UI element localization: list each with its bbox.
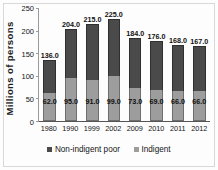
y-axis-tick-mark: [36, 31, 39, 32]
bar-total-label: 225.0: [105, 10, 123, 19]
x-axis-tick-label: 2012: [189, 124, 211, 137]
x-axis-tick-label: 2011: [167, 124, 189, 137]
bar-slot: 176.069.0: [146, 8, 167, 121]
x-axis-tick-label: 1999: [81, 124, 103, 137]
bar-value-label-indigent: 69.0: [150, 97, 164, 106]
y-axis-tick-label: 250: [21, 4, 34, 13]
bar-segment-indigent[interactable]: 95.0: [65, 78, 77, 121]
y-axis-tick-mark: [36, 8, 39, 9]
y-axis-tick-mark: [36, 121, 39, 122]
bar-segment-non-indigent-poor[interactable]: 176.0: [150, 41, 162, 89]
bar-segment-indigent[interactable]: 66.0: [172, 91, 184, 121]
bar-slot: 215.091.0: [82, 8, 103, 121]
legend-swatch-icon: [47, 147, 52, 152]
x-axis-tick-label: 2010: [146, 124, 168, 137]
bar-slot: 225.099.0: [103, 8, 124, 121]
y-axis-title-text: Millions of persons: [4, 21, 15, 115]
bar-total-label: 184.0: [126, 29, 144, 38]
plot-wrapper: 050100150200250 136.062.0204.095.0215.09…: [17, 8, 210, 138]
y-axis-title: Millions of persons: [1, 6, 17, 130]
chart-legend: Non-indigent poorIndigent: [0, 145, 218, 154]
bar-segment-non-indigent-poor[interactable]: 215.0: [86, 24, 98, 80]
stacked-bar[interactable]: 176.069.0: [150, 8, 162, 121]
bar-total-label: 215.0: [83, 15, 101, 24]
stacked-bar[interactable]: 225.099.0: [108, 8, 120, 121]
legend-label: Non-indigent poor: [55, 145, 120, 154]
bar-total-label: 168.0: [169, 36, 187, 45]
legend-entry[interactable]: Non-indigent poor: [47, 145, 120, 154]
bar-total-label: 204.0: [62, 20, 80, 29]
y-axis-tick-label: 100: [21, 72, 34, 81]
bar-value-label-indigent: 66.0: [192, 97, 206, 106]
stacked-bar[interactable]: 215.091.0: [86, 8, 98, 121]
bar-value-label-indigent: 62.0: [43, 97, 57, 106]
y-axis-tick-labels: 050100150200250: [17, 8, 36, 122]
x-axis-tick-label: 1990: [60, 124, 82, 137]
y-axis-tick-mark: [36, 53, 39, 54]
bar-segment-indigent[interactable]: 66.0: [193, 91, 205, 121]
stacked-bar-chart: Millions of persons 050100150200250 136.…: [0, 0, 218, 170]
x-axis-tick-label: 2009: [124, 124, 146, 137]
bar-value-label-indigent: 73.0: [128, 97, 142, 106]
bar-value-label-indigent: 66.0: [171, 97, 185, 106]
bar-group: 136.062.0204.095.0215.091.0225.099.0184.…: [39, 8, 210, 121]
bar-segment-non-indigent-poor[interactable]: 167.0: [193, 46, 205, 92]
bar-segment-indigent[interactable]: 69.0: [150, 90, 162, 121]
y-axis-tick-label: 0: [30, 118, 34, 127]
stacked-bar[interactable]: 204.095.0: [65, 8, 77, 121]
y-axis-tick-mark: [36, 98, 39, 99]
bar-segment-non-indigent-poor[interactable]: 204.0: [65, 29, 77, 78]
stacked-bar[interactable]: 167.066.0: [193, 8, 205, 121]
bar-slot: 204.095.0: [60, 8, 81, 121]
legend-swatch-icon: [134, 147, 139, 152]
bar-value-label-indigent: 95.0: [64, 97, 78, 106]
stacked-bar[interactable]: 184.073.0: [129, 8, 141, 121]
bar-segment-non-indigent-poor[interactable]: 168.0: [172, 45, 184, 91]
x-axis-tick-label: 2002: [103, 124, 125, 137]
x-axis-tick-label: 1980: [38, 124, 60, 137]
bar-slot: 167.066.0: [189, 8, 210, 121]
bar-segment-non-indigent-poor[interactable]: 184.0: [129, 38, 141, 88]
bar-slot: 136.062.0: [39, 8, 60, 121]
bar-segment-indigent[interactable]: 91.0: [86, 80, 98, 121]
bar-value-label-indigent: 91.0: [85, 97, 99, 106]
bar-slot: 168.066.0: [167, 8, 188, 121]
bar-segment-indigent[interactable]: 73.0: [129, 88, 141, 121]
bar-total-label: 176.0: [148, 32, 166, 41]
plot-area: 136.062.0204.095.0215.091.0225.099.0184.…: [38, 8, 210, 122]
y-axis-tick-label: 150: [21, 49, 34, 58]
legend-entry[interactable]: Indigent: [134, 145, 171, 154]
bar-segment-indigent[interactable]: 99.0: [108, 76, 120, 121]
y-axis-tick-mark: [36, 76, 39, 77]
bar-value-label-indigent: 99.0: [107, 97, 121, 106]
y-axis-tick-label: 200: [21, 26, 34, 35]
legend-label: Indigent: [141, 145, 170, 154]
bar-segment-non-indigent-poor[interactable]: 136.0: [43, 60, 55, 93]
stacked-bar[interactable]: 136.062.0: [43, 8, 55, 121]
bar-total-label: 167.0: [190, 37, 208, 46]
y-axis-tick-label: 50: [26, 95, 34, 104]
x-axis-tick-labels: 19801990199920022009201020112012: [38, 124, 210, 137]
stacked-bar[interactable]: 168.066.0: [172, 8, 184, 121]
bar-total-label: 136.0: [41, 51, 59, 60]
bar-slot: 184.073.0: [125, 8, 146, 121]
bar-segment-indigent[interactable]: 62.0: [43, 93, 55, 121]
bar-segment-non-indigent-poor[interactable]: 225.0: [108, 19, 120, 76]
